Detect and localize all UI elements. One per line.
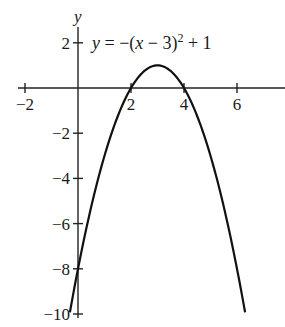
eq-y: y <box>90 33 100 53</box>
parabola-chart: −22462−2−4−6−8−10 y y = −(x − 3)2 + 1 <box>0 0 285 327</box>
y-tick-label: −4 <box>52 169 71 188</box>
x-tick-label: −2 <box>16 95 34 114</box>
y-axis-label: y <box>72 7 82 26</box>
y-tick-label: −2 <box>52 124 70 143</box>
y-tick-label: −10 <box>43 305 70 324</box>
equation-label: y = −(x − 3)2 + 1 <box>90 31 212 54</box>
x-tick-label: 4 <box>180 95 189 114</box>
y-tick-label: −8 <box>52 260 70 279</box>
eq-x: x <box>134 33 143 53</box>
x-tick-label: 2 <box>127 95 136 114</box>
y-tick-label: −6 <box>52 215 70 234</box>
parabola-curve <box>70 65 245 311</box>
y-tick-label: 2 <box>62 34 71 53</box>
eq-tail: + 1 <box>183 33 211 53</box>
tick-labels: −22462−2−4−6−8−10 <box>16 34 241 324</box>
eq-rest: − 3) <box>143 33 177 54</box>
x-tick-label: 6 <box>233 95 242 114</box>
eq-equals: = −( <box>100 33 135 54</box>
